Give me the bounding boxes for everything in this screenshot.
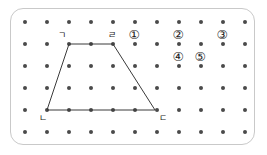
figure-root: ㄱㄹㄷㄴ①②③④⑤ [0,0,267,155]
vertex-label: ㄱ [58,31,66,40]
choice-4[interactable]: ④ [172,51,183,64]
choice-5[interactable]: ⑤ [194,51,205,64]
choice-1[interactable]: ① [128,29,139,42]
label-layer: ㄱㄹㄷㄴ①②③④⑤ [0,0,267,155]
choice-3[interactable]: ③ [216,29,227,42]
choice-2[interactable]: ② [172,29,183,42]
vertex-label: ㄴ [39,114,47,123]
vertex-label: ㄹ [108,31,116,40]
vertex-label: ㄷ [159,114,167,123]
